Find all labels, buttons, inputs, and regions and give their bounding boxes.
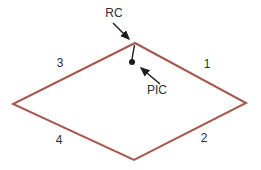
rc-label: RC xyxy=(105,6,122,20)
rc-arrow xyxy=(113,23,129,39)
pic-stem-line xyxy=(132,45,135,59)
side-label-4: 4 xyxy=(56,133,63,147)
rhombus-figure xyxy=(0,0,261,170)
pic-label: PIC xyxy=(147,83,167,97)
side-label-3: 3 xyxy=(57,56,64,70)
side-label-2: 2 xyxy=(201,131,208,145)
pic-arrow xyxy=(141,68,160,84)
pic-point-dot xyxy=(129,59,135,65)
diagram-canvas: RC PIC 1 2 3 4 xyxy=(0,0,261,170)
side-label-1: 1 xyxy=(204,57,211,71)
